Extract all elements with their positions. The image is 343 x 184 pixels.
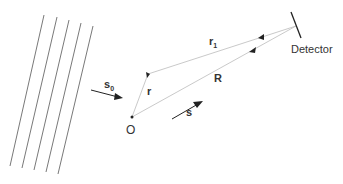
label-detector: Detector: [291, 44, 333, 55]
label-origin: O: [126, 124, 135, 136]
origin-point: [131, 116, 134, 119]
label-r1: r1: [209, 36, 217, 49]
label-s: s: [186, 107, 192, 118]
R-arrowhead: [249, 47, 256, 53]
r1-arrowhead: [258, 34, 264, 40]
label-R: R: [214, 73, 222, 84]
detector-plate: [291, 12, 301, 38]
label-s0: s0: [104, 79, 114, 92]
diagram-canvas: [0, 0, 343, 184]
label-r: r: [147, 86, 151, 97]
wavefronts: [10, 15, 93, 174]
